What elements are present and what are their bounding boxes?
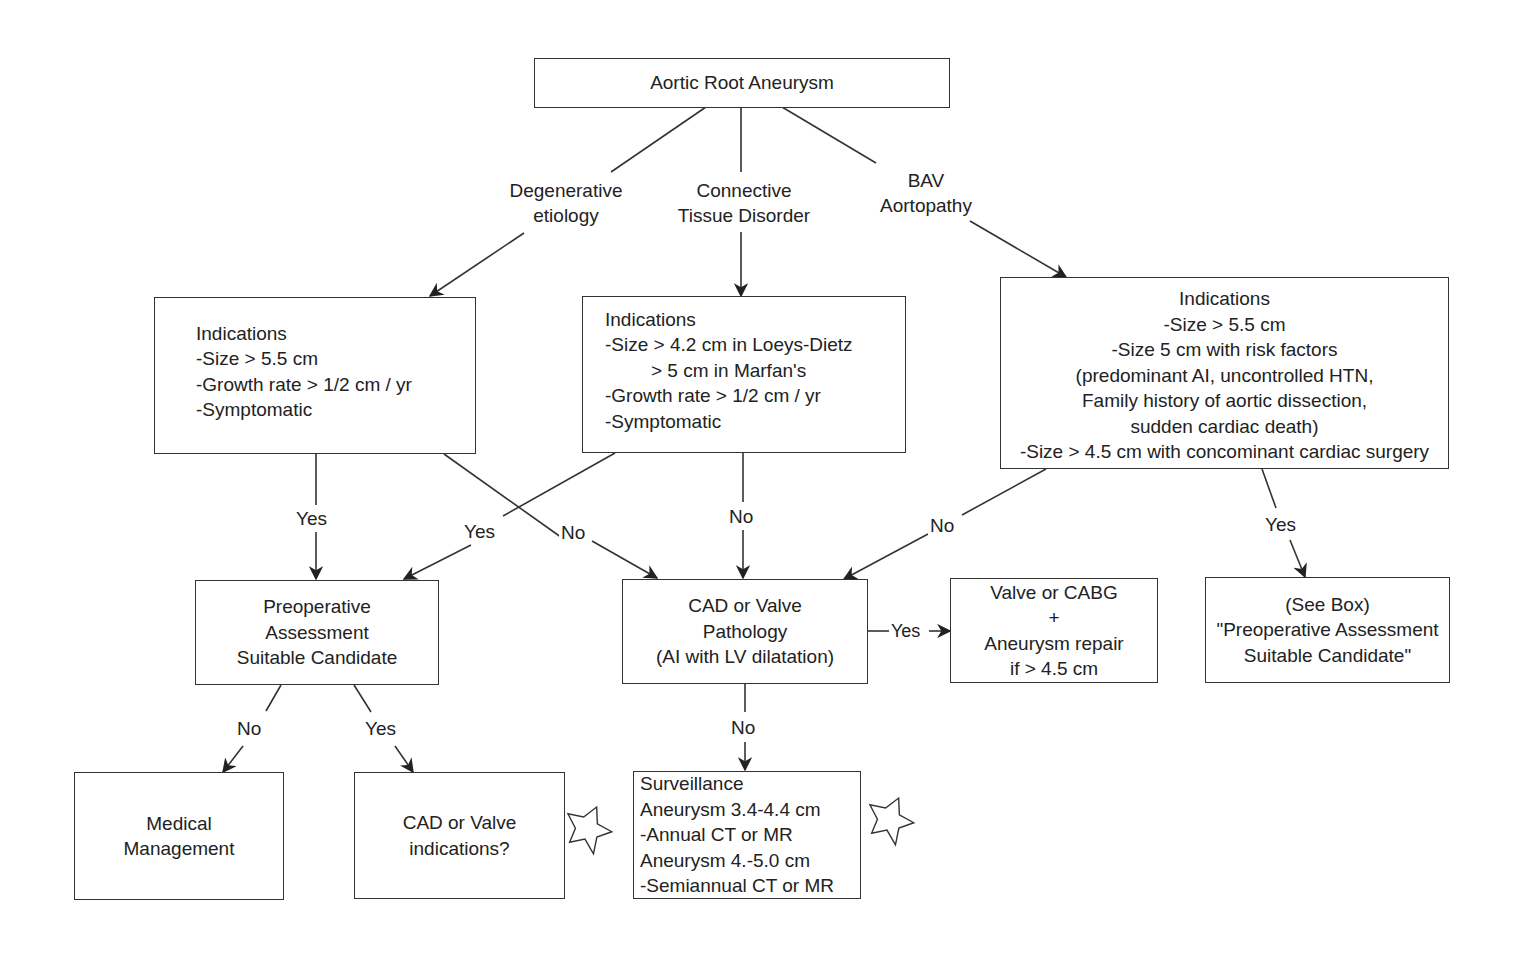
star-icon — [560, 800, 617, 857]
edge-bav-no — [844, 534, 928, 579]
node-cad-or-valve-indications: CAD or Valve indications? — [354, 772, 565, 899]
edge-label-deg-yes: Yes — [294, 506, 329, 531]
edge-bav-yes — [1290, 540, 1305, 577]
edge-label-bav-yes: Yes — [1263, 512, 1298, 537]
edge-preop-no — [223, 746, 243, 772]
node-indications-degenerative: Indications -Size > 5.5 cm -Growth rate … — [154, 297, 476, 454]
branch-label-connective-tissue: Connective Tissue Disorder — [662, 178, 826, 228]
edge-degenerative-indications — [430, 233, 524, 296]
edge-label-cad-no: No — [729, 715, 757, 740]
node-aortic-root-aneurysm: Aortic Root Aneurysm — [534, 58, 950, 108]
edge-deg-no — [592, 541, 657, 578]
node-preoperative-assessment: Preoperative Assessment Suitable Candida… — [195, 580, 439, 685]
node-valve-or-cabg: Valve or CABG + Aneurysm repair if > 4.5… — [950, 578, 1158, 683]
edge-label-bav-no: No — [928, 513, 956, 538]
node-medical-management: Medical Management — [74, 772, 284, 900]
edge-bav-indications — [970, 221, 1066, 277]
edge-root-bav — [782, 107, 876, 163]
node-text: Aortic Root Aneurysm — [650, 70, 834, 96]
node-see-box: (See Box) "Preoperative Assessment Suita… — [1205, 577, 1450, 683]
edge-con-yes — [404, 545, 471, 579]
node-indications-connective: Indications -Size > 4.2 cm in Loeys-Diet… — [582, 296, 906, 453]
branch-label-degenerative: Degenerative etiology — [494, 178, 638, 228]
edge-label-con-yes: Yes — [462, 519, 497, 544]
edge-label-cad-yes: Yes — [889, 619, 922, 644]
branch-label-bav-aortopathy: BAV Aortopathy — [864, 168, 988, 218]
node-cad-or-valve-pathology: CAD or Valve Pathology (AI with LV dilat… — [622, 579, 868, 684]
edge-root-degenerative — [611, 107, 706, 172]
edge-label-preop-yes: Yes — [363, 716, 398, 741]
edge-label-deg-no: No — [559, 520, 587, 545]
edge-preop-yes — [395, 746, 413, 772]
flowchart-canvas: Aortic Root Aneurysm Degenerative etiolo… — [0, 0, 1528, 954]
node-indications-bav: Indications -Size > 5.5 cm -Size 5 cm wi… — [1000, 277, 1449, 469]
edge-label-preop-no: No — [235, 716, 263, 741]
edge-label-con-no: No — [727, 504, 755, 529]
node-surveillance: Surveillance Aneurysm 3.4-4.4 cm -Annual… — [633, 771, 861, 899]
star-icon — [862, 791, 919, 848]
